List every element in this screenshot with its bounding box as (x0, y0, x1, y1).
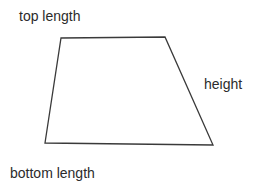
bottom-length-label: bottom length (10, 165, 95, 181)
trapezoid-diagram: top length height bottom length (0, 0, 271, 189)
height-label: height (204, 76, 242, 92)
top-length-label: top length (19, 8, 81, 24)
trapezoid-outline (45, 37, 213, 145)
trapezoid-shape-svg (0, 0, 271, 189)
